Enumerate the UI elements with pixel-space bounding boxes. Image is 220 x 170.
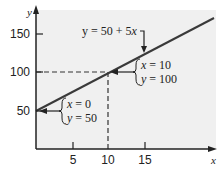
- x-tick-label: 5: [70, 153, 77, 167]
- line-equation-label: y = 50 + 5x: [82, 24, 138, 38]
- y-tick-label: 50: [17, 104, 31, 118]
- intercept-label-y: y = 50: [66, 111, 97, 125]
- point-label-y: y = 100: [140, 72, 177, 86]
- x-tick-label: 15: [138, 153, 152, 167]
- y-tick-label: 150: [10, 27, 30, 41]
- y-axis-arrow-icon: [33, 5, 39, 14]
- x-tick-label: 10: [101, 153, 115, 167]
- intercept-label-x: x = 0: [66, 97, 91, 111]
- line-chart: 150 100 50 5 10 15 y x y = 50 + 5x x = 1…: [0, 0, 220, 170]
- y-tick-label: 100: [10, 65, 30, 79]
- x-axis-label: x: [210, 154, 216, 166]
- point-label-x: x = 10: [140, 58, 171, 72]
- y-axis-label: y: [26, 6, 32, 18]
